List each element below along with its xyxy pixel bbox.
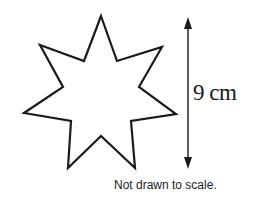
height-arrow	[184, 17, 192, 169]
seven-pointed-star	[24, 16, 176, 168]
arrow-up-icon	[184, 17, 192, 29]
height-label: 9 cm	[193, 80, 236, 106]
arrow-down-icon	[184, 157, 192, 169]
scale-note: Not drawn to scale.	[114, 178, 217, 192]
